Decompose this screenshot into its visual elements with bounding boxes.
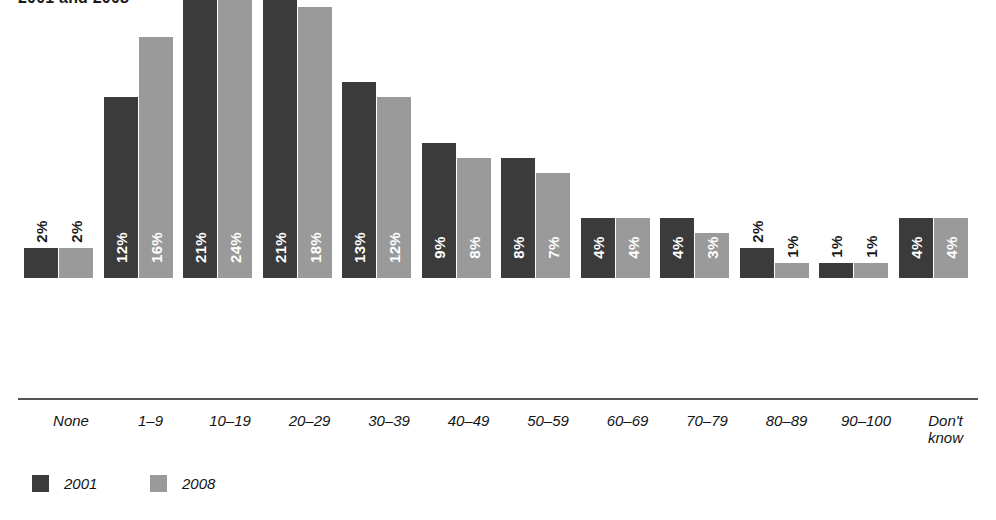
bar-value-label: 12% <box>104 220 138 274</box>
x-axis-tick-label: 10–19 <box>185 412 275 429</box>
bar-value-label: 1% <box>775 207 809 261</box>
bar-value-label: 21% <box>183 220 217 274</box>
x-axis-tick-label: 1–9 <box>106 412 196 429</box>
x-axis-tick-label: Don'tknow <box>901 412 991 446</box>
bar[interactable] <box>854 263 888 278</box>
x-axis-tick-label: 30–39 <box>344 412 434 429</box>
x-axis-tick-label: 90–100 <box>821 412 911 429</box>
bar-value-label: 12% <box>377 220 411 274</box>
bar-value-label: 9% <box>422 220 456 274</box>
bar-value-label: 3% <box>695 220 729 274</box>
bar-value-label: 4% <box>581 220 615 274</box>
x-axis-tick-label: 40–49 <box>424 412 514 429</box>
bar-value-label: 7% <box>536 220 570 274</box>
bar-value-label: 4% <box>616 220 650 274</box>
bar-value-label: 2% <box>59 192 93 246</box>
bar[interactable] <box>24 248 58 278</box>
bar-value-label: 1% <box>819 207 853 261</box>
x-axis-tick-label: 80–89 <box>742 412 832 429</box>
bar-value-label: 8% <box>457 220 491 274</box>
chart-plot-area: 2%2%12%16%21%24%21%18%13%12%9%8%8%7%4%4%… <box>0 0 996 400</box>
bar-value-label: 18% <box>298 220 332 274</box>
bar-value-label: 16% <box>139 220 173 274</box>
legend-item-label: 2001 <box>64 475 97 492</box>
bar-value-label: 4% <box>660 220 694 274</box>
bar-value-label: 2% <box>24 192 58 246</box>
x-axis-tick-label: 20–29 <box>265 412 355 429</box>
bar-value-label: 13% <box>342 220 376 274</box>
bar-value-label: 1% <box>854 207 888 261</box>
bar-value-label: 8% <box>501 220 535 274</box>
x-axis-tick-label: None <box>26 412 116 429</box>
bar[interactable] <box>59 248 93 278</box>
x-axis-tick-label: 70–79 <box>662 412 752 429</box>
x-axis-tick-label: 60–69 <box>583 412 673 429</box>
bar-value-label: 2% <box>740 192 774 246</box>
bar-value-label: 4% <box>934 220 968 274</box>
bar-value-label: 4% <box>899 220 933 274</box>
bar-value-label: 21% <box>263 220 297 274</box>
legend-item-label: 2008 <box>182 475 215 492</box>
x-axis-baseline <box>18 398 978 400</box>
legend-swatch-icon <box>150 475 167 492</box>
bar[interactable] <box>819 263 853 278</box>
legend-swatch-icon <box>32 475 49 492</box>
x-axis-tick-label: 50–59 <box>503 412 593 429</box>
legend-item-2001[interactable]: 2001 <box>32 474 97 494</box>
legend-item-2008[interactable]: 2008 <box>150 474 215 494</box>
bar[interactable] <box>775 263 809 278</box>
bar-value-label: 24% <box>218 220 252 274</box>
bar[interactable] <box>740 248 774 278</box>
